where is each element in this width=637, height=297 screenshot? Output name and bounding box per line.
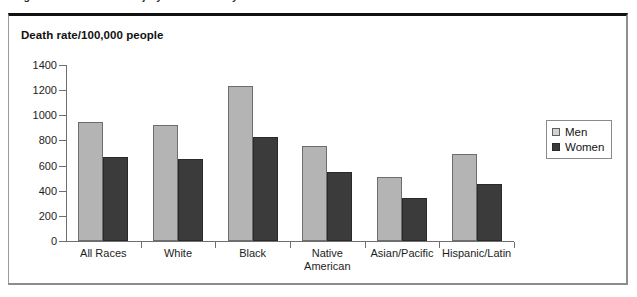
- chart-title: Death rate/100,000 people: [21, 29, 164, 41]
- bar-women: [178, 159, 203, 241]
- x-axis-category-label: Black: [215, 247, 290, 260]
- y-axis-tick-mark: [59, 115, 66, 116]
- plot-area: 0200400600800100012001400 All RacesWhite…: [66, 65, 514, 242]
- bar-women: [327, 172, 352, 241]
- y-axis-tick-label: 1400: [33, 59, 57, 71]
- figure-caption-text: Figure 2. Unintentional injury death rat…: [14, 0, 348, 2]
- y-axis-tick-label: 1200: [33, 84, 57, 96]
- y-axis-tick-label: 800: [39, 134, 57, 146]
- x-axis-tick-mark: [514, 242, 515, 248]
- chart-figure-box: Death rate/100,000 people 02004006008001…: [8, 13, 628, 285]
- bar-men: [153, 125, 178, 241]
- bar-men: [302, 146, 327, 241]
- chart-legend: Men Women: [546, 120, 612, 159]
- bar-group: [452, 65, 502, 241]
- bar-men: [452, 154, 477, 241]
- y-axis-tick-mark: [59, 241, 66, 242]
- x-axis-category-label: White: [141, 247, 216, 260]
- legend-swatch-men-icon: [552, 128, 560, 136]
- figure-caption-strip: Figure 2. Unintentional injury death rat…: [0, 0, 637, 9]
- y-axis-tick-label: 400: [39, 185, 57, 197]
- bar-women: [402, 198, 427, 241]
- legend-swatch-women-icon: [552, 143, 560, 151]
- y-axis-tick-mark: [59, 166, 66, 167]
- x-axis-category-label: Hispanic/Latin: [439, 247, 514, 260]
- bar-group: [78, 65, 128, 241]
- legend-item-men: Men: [552, 124, 604, 139]
- x-axis-category-label: Native American: [290, 247, 365, 273]
- legend-label-men: Men: [565, 126, 587, 138]
- bar-men: [228, 86, 253, 241]
- y-axis-tick-label: 600: [39, 160, 57, 172]
- bar-group: [153, 65, 203, 241]
- bar-group: [377, 65, 427, 241]
- bar-men: [377, 177, 402, 241]
- x-axis-category-label: All Races: [66, 247, 141, 260]
- bar-group: [228, 65, 278, 241]
- legend-label-women: Women: [565, 141, 604, 153]
- y-axis-tick-mark: [59, 216, 66, 217]
- bar-group: [302, 65, 352, 241]
- bar-women: [103, 157, 128, 241]
- y-axis-tick-mark: [59, 140, 66, 141]
- y-axis-tick-label: 1000: [33, 109, 57, 121]
- y-axis-tick-mark: [59, 90, 66, 91]
- y-axis-tick-mark: [59, 191, 66, 192]
- y-axis-line: [66, 65, 67, 242]
- bar-women: [477, 184, 502, 241]
- y-axis-tick-mark: [59, 65, 66, 66]
- legend-item-women: Women: [552, 139, 604, 154]
- bar-women: [253, 137, 278, 241]
- bar-men: [78, 122, 103, 241]
- y-axis-tick-label: 0: [51, 235, 57, 247]
- x-axis-category-label: Asian/Pacific: [365, 247, 440, 260]
- y-axis-tick-label: 200: [39, 210, 57, 222]
